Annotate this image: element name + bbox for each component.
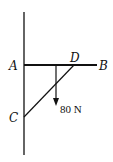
label-b: B bbox=[98, 59, 108, 73]
load-arrow-head bbox=[53, 98, 59, 106]
label-c: C bbox=[9, 111, 18, 125]
load-label: 80 N bbox=[60, 103, 82, 115]
label-d: D bbox=[69, 51, 80, 65]
label-a: A bbox=[8, 59, 18, 73]
truss-diagram: A B C D 80 N bbox=[0, 0, 113, 162]
